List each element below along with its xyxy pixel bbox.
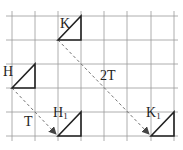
label-h: H (3, 64, 13, 79)
translation-diagram: K H T 2T H1 K1 (0, 0, 183, 150)
label-k1-main: K (146, 105, 156, 120)
label-h1: H1 (53, 105, 68, 121)
label-k1: K1 (146, 105, 161, 121)
label-k1-sub: 1 (156, 111, 161, 121)
label-k: K (60, 16, 70, 31)
vector-k-to-k1 (58, 40, 149, 134)
label-2t: 2T (100, 68, 116, 83)
label-h1-main: H (53, 105, 63, 120)
triangle-h (12, 64, 35, 88)
label-h1-sub: 1 (63, 111, 68, 121)
label-t: T (24, 114, 33, 129)
vector-h-to-h1 (12, 88, 56, 134)
